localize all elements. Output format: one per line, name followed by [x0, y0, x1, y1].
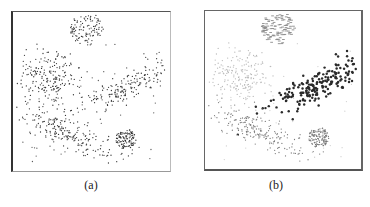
cluster-bottom-right-circle	[115, 129, 136, 149]
scatter-panel-b	[204, 10, 363, 171]
caption-b: (b)	[256, 178, 296, 193]
cluster-top-circle	[70, 15, 104, 46]
cluster-left-diffuse	[17, 44, 82, 117]
scatter-panel-a	[11, 11, 171, 172]
cluster-noise	[22, 44, 161, 162]
cluster-bottom-elongated	[208, 94, 324, 161]
scatter-plot-b	[205, 11, 361, 169]
scatter-plot-a	[13, 12, 170, 171]
caption-a: (a)	[71, 178, 111, 193]
cluster-noise	[214, 43, 352, 160]
cluster-bottom-elongated	[16, 96, 133, 164]
cluster-right-elongated	[45, 53, 165, 136]
cluster-left-diffuse	[209, 42, 274, 115]
cluster-top-circle	[261, 14, 296, 44]
cluster-right-elongated	[237, 50, 357, 136]
cluster-bottom-right-circle	[308, 128, 329, 148]
